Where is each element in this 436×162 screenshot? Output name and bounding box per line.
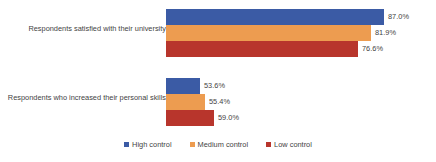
legend-swatch-icon bbox=[190, 142, 195, 147]
bar-medium-control-1[interactable] bbox=[166, 25, 371, 41]
bar-low-control-1[interactable] bbox=[166, 41, 358, 57]
bar-value-medium-control-1: 81.9% bbox=[375, 28, 396, 38]
legend-swatch-icon bbox=[266, 142, 271, 147]
bar-value-low-control-2: 59.0% bbox=[218, 113, 239, 123]
plot-area: Respondents satisfied with their univers… bbox=[0, 0, 436, 132]
bar-chart: Respondents satisfied with their univers… bbox=[0, 0, 436, 162]
bar-high-control-1[interactable] bbox=[166, 9, 384, 25]
legend-item-high-control[interactable]: High control bbox=[124, 140, 171, 149]
bar-low-control-2[interactable] bbox=[166, 110, 214, 126]
legend-label-low-control: Low control bbox=[274, 140, 312, 149]
legend-item-low-control[interactable]: Low control bbox=[266, 140, 312, 149]
legend-item-medium-control[interactable]: Medium control bbox=[190, 140, 249, 149]
legend-label-high-control: High control bbox=[132, 140, 171, 149]
bar-high-control-2[interactable] bbox=[166, 78, 200, 94]
bar-value-high-control-1: 87.0% bbox=[388, 12, 409, 22]
bar-value-high-control-2: 53.6% bbox=[204, 81, 225, 91]
category-label-1: Respondents satisfied with their univers… bbox=[0, 24, 166, 33]
bar-value-low-control-1: 76.6% bbox=[362, 44, 383, 54]
bar-medium-control-2[interactable] bbox=[166, 94, 205, 110]
bar-value-medium-control-2: 55.4% bbox=[209, 97, 230, 107]
category-label-2: Respondents who increased their personal… bbox=[0, 93, 166, 102]
chart-legend: High control Medium control Low control bbox=[0, 140, 436, 149]
legend-label-medium-control: Medium control bbox=[198, 140, 249, 149]
legend-swatch-icon bbox=[124, 142, 129, 147]
